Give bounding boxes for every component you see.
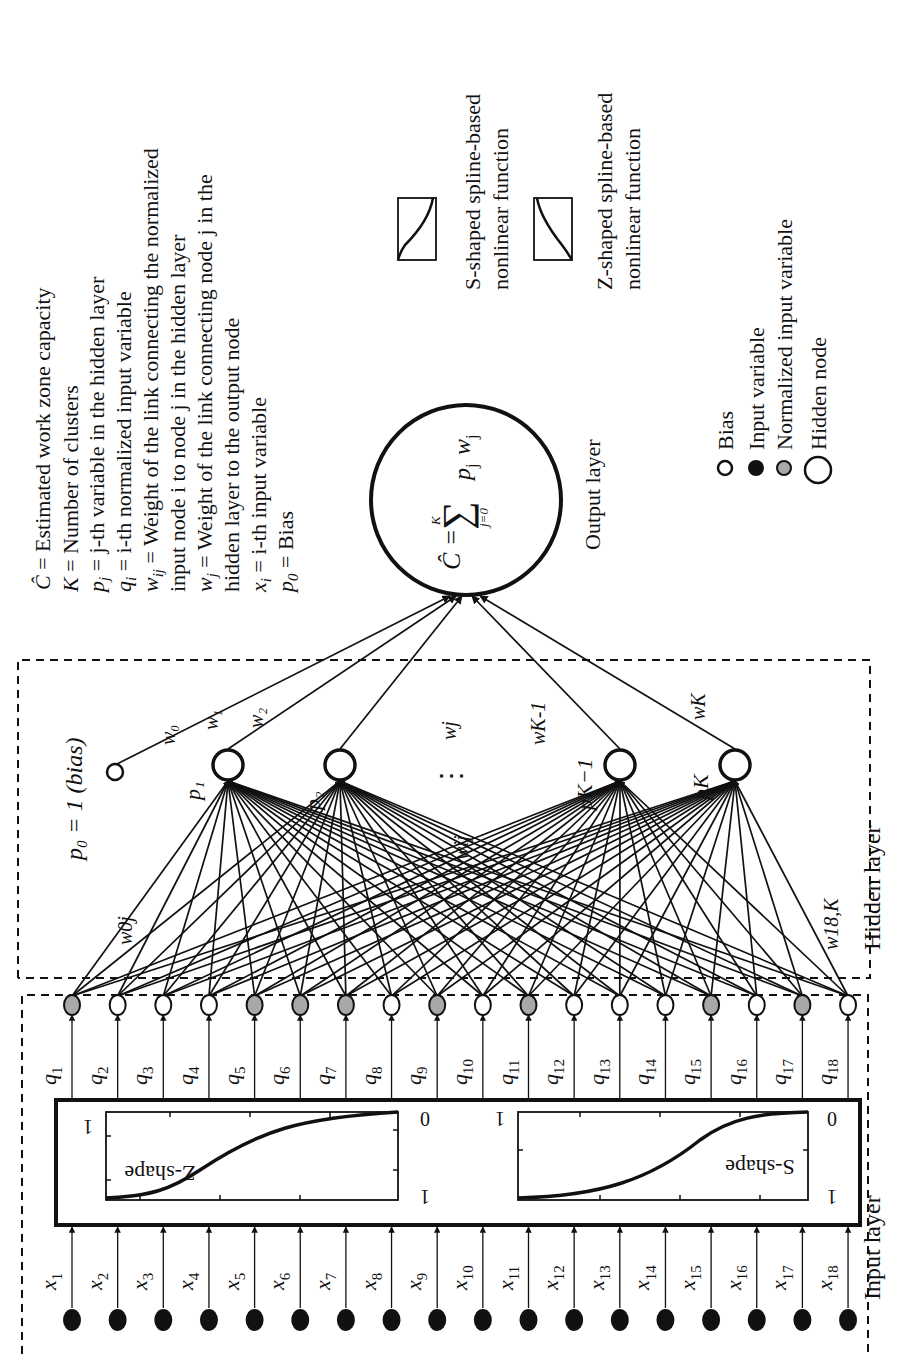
hidden-node-legend-icon — [805, 457, 831, 483]
output-layer-label: Output layer — [580, 439, 605, 550]
normalized-input-node — [612, 995, 628, 1015]
weight-label-w1: w₁ — [200, 710, 222, 730]
x-label: x17 — [766, 1265, 795, 1291]
input-variable-node — [337, 1309, 355, 1331]
x-label: x7 — [310, 1272, 339, 1291]
definition-line: input node i to node j in the hidden lay… — [165, 234, 190, 592]
bias-legend-icon — [718, 461, 732, 475]
s-shape-legend-text-2: nonlinear function — [488, 128, 513, 290]
q-label: q1 — [36, 1067, 65, 1085]
s-shape-label: S-shape — [725, 1155, 795, 1180]
definition-line: xi = i-th input variable — [246, 397, 274, 593]
input-variable-node — [428, 1309, 446, 1331]
normalized-input-node — [749, 995, 765, 1015]
hidden-node-legend-label: Hidden node — [806, 337, 831, 450]
input-variable-node — [154, 1309, 172, 1331]
q-label: q17 — [766, 1059, 795, 1085]
link-label-w18K: w18,K — [820, 897, 842, 950]
q-label: q15 — [675, 1059, 704, 1085]
input-variable-legend-label: Input variable — [744, 327, 769, 450]
bias-label: p₀ = 1 (bias) — [61, 737, 87, 862]
link-label-wij: wij — [450, 835, 473, 860]
neural-network-diagram: x1q1x2q2x3q3x4q4x5q5x6q6x7q7x8q8x9q9x10q… — [0, 0, 911, 1354]
weight-label-w2: w₂ — [245, 708, 267, 728]
q-label: q8 — [356, 1067, 385, 1085]
x-label: x3 — [127, 1273, 156, 1291]
q-label: q5 — [219, 1067, 248, 1085]
q-label: q11 — [493, 1060, 522, 1085]
definition-line: Ĉ = Estimated work zone capacity — [30, 287, 55, 590]
definition-line: hidden layer to the output node — [219, 318, 244, 592]
s-shape-legend-plot — [398, 198, 436, 260]
hidden-layer-label: Hidden layer — [859, 825, 885, 950]
sum-symbol: ∑ — [434, 501, 479, 530]
input-variable-node — [793, 1309, 811, 1331]
input-variable-node — [109, 1309, 127, 1331]
q-label: q3 — [127, 1067, 156, 1085]
input-variable-node — [246, 1309, 264, 1331]
normalized-input-node — [429, 995, 445, 1015]
hidden-nodes — [107, 750, 750, 780]
input-variable-node — [611, 1309, 629, 1331]
x-label: x15 — [675, 1265, 704, 1291]
hidden-node — [720, 750, 750, 780]
x-label: x18 — [812, 1265, 841, 1291]
z-tick-right: 0 — [420, 1108, 430, 1130]
normalized-input-node — [521, 995, 537, 1015]
normalized-input-node — [794, 995, 810, 1015]
x-label: x12 — [538, 1265, 567, 1291]
x-label: x11 — [493, 1266, 522, 1291]
bias-node — [107, 764, 123, 780]
normalized-input-legend-icon — [777, 461, 791, 475]
normalized-input-node — [475, 995, 491, 1015]
s-tick-left: 1 — [495, 1108, 505, 1130]
node-legend — [718, 457, 831, 483]
definition-line: p0 = Bias — [273, 511, 301, 594]
input-variable-node — [839, 1309, 857, 1331]
link-label-w0j: w0j — [114, 916, 137, 945]
normalized-input-node — [292, 995, 308, 1015]
weight-label-wj: wj — [438, 721, 461, 740]
input-variable-node — [200, 1309, 218, 1331]
s-shape-legend-text: S-shaped spline-based — [460, 94, 485, 290]
definition-line: qi = i-th normalized input variable — [111, 291, 139, 592]
definition-line: wj = Weight of the link connecting node … — [192, 174, 220, 592]
z-shape-legend-text: Z-shaped spline-based — [592, 93, 617, 290]
z-shape-legend-text-2: nonlinear function — [620, 128, 645, 290]
normalized-input-node — [201, 995, 217, 1015]
bias-legend-label: Bias — [713, 411, 738, 450]
hidden-node — [325, 750, 355, 780]
z-shape-label: Z-shape — [125, 1161, 196, 1186]
definition-line: wij = Weight of the link connecting the … — [138, 148, 166, 592]
x-label: x6 — [264, 1272, 293, 1291]
q-label: q12 — [538, 1059, 567, 1085]
hidden-layer-box — [18, 660, 870, 978]
x-label: x4 — [173, 1272, 202, 1291]
input-variable-legend-icon — [748, 460, 764, 476]
q-label: q18 — [812, 1059, 841, 1085]
q-label: q16 — [721, 1059, 750, 1085]
input-variable-node — [63, 1309, 81, 1331]
input-variable-node — [702, 1309, 720, 1331]
q-label: q6 — [264, 1066, 293, 1085]
q-label: q9 — [401, 1067, 430, 1085]
q-label: q10 — [447, 1059, 476, 1085]
input-variable-node — [748, 1309, 766, 1331]
input-variable-node — [383, 1309, 401, 1331]
input-variable-node — [656, 1309, 674, 1331]
hidden-label-pK-1: pK−1 — [572, 758, 597, 812]
hidden-label-p2: p₂ — [300, 791, 325, 812]
definition-line: pj = j-th variable in the hidden layer — [84, 276, 112, 594]
normalized-input-legend-label: Normalized input variable — [772, 219, 797, 450]
q-label: q4 — [173, 1066, 202, 1085]
x-label: x9 — [401, 1273, 430, 1291]
q-label: q7 — [310, 1066, 339, 1085]
hidden-label-pK: pK — [688, 773, 713, 802]
input-variable-node — [520, 1309, 538, 1331]
z-tick-left: 1 — [83, 1116, 93, 1138]
q-label: q13 — [584, 1059, 613, 1085]
normalized-input-node — [657, 995, 673, 1015]
q-label: q2 — [82, 1067, 111, 1085]
x-label: x10 — [447, 1265, 476, 1291]
z-tick-bottom: 1 — [420, 1186, 430, 1208]
